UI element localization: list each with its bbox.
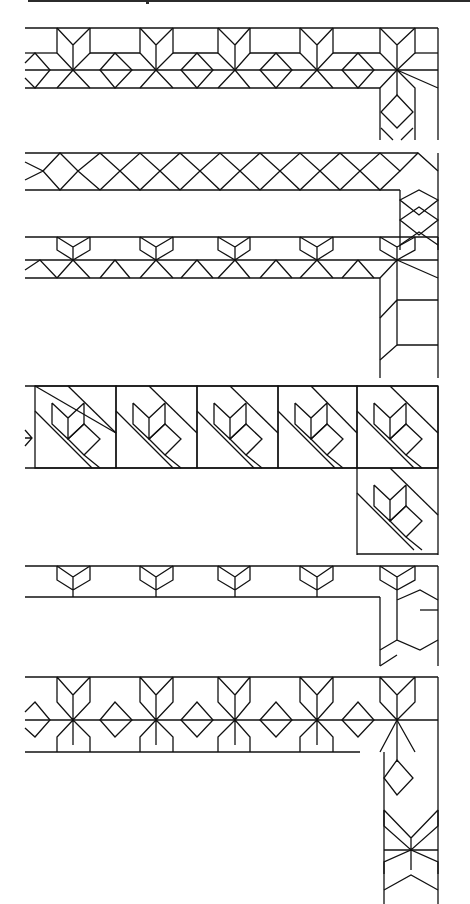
pattern-5-chevron-strip [25, 566, 438, 666]
pattern-sheet [0, 0, 470, 904]
pattern-4-diagonal-blocks [25, 386, 438, 555]
star-motif-row [25, 28, 438, 140]
pattern-1-star-border [25, 28, 438, 140]
pattern-3-half-star-chevron [25, 237, 438, 378]
pattern-2-diamond-chain [25, 153, 438, 250]
block-row [35, 386, 438, 550]
pattern-6-double-star [25, 677, 438, 904]
star-motif-row [25, 677, 438, 752]
